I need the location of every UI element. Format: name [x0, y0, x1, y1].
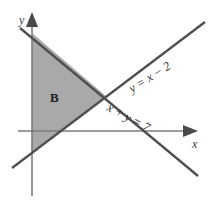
arrow-up-icon [26, 12, 38, 27]
x-axis-label: x [191, 137, 198, 151]
shaded-region-b [32, 33, 107, 152]
diagram-canvas: y x B y = x − 2 x + y = 7 [0, 0, 212, 209]
region-diagram: y x B y = x − 2 x + y = 7 [0, 0, 212, 209]
y-axis-label: y [18, 13, 25, 27]
region-label-b: B [50, 90, 59, 105]
arrow-right-icon [183, 125, 198, 137]
equation-label-line-2: x + y = 7 [104, 100, 153, 135]
